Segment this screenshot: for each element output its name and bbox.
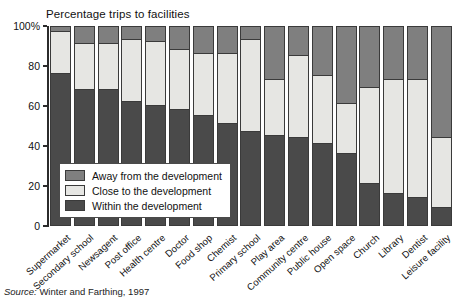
bar-segment <box>264 80 285 136</box>
bar-segment <box>359 184 380 226</box>
bar-segment <box>121 26 142 40</box>
bar-segment <box>312 144 333 226</box>
bar-play-area[interactable] <box>264 26 285 226</box>
legend-item: Close to the development <box>65 183 222 198</box>
y-axis-tick <box>43 65 47 67</box>
y-axis-tick <box>43 185 47 187</box>
bar-segment <box>145 26 166 42</box>
y-axis-tick-label: 80 <box>0 60 40 72</box>
bar-segment <box>193 26 214 54</box>
bar-segment <box>431 138 452 208</box>
chart-legend: Away from the development Close to the d… <box>59 163 231 218</box>
source-text: Winter and Farthing, 1997 <box>39 286 149 297</box>
legend-item: Within the development <box>65 198 222 213</box>
bar-segment <box>336 26 357 104</box>
bar-segment <box>98 44 119 90</box>
y-axis-tick <box>43 145 47 147</box>
y-axis-tick-label: 60 <box>0 100 40 112</box>
bar-segment <box>431 208 452 226</box>
bar-segment <box>288 26 309 56</box>
bar-segment <box>407 198 428 226</box>
legend-swatch-close-icon <box>65 185 85 196</box>
bar-segment <box>312 26 333 76</box>
chart-title: Percentage trips to facilities <box>46 8 190 20</box>
legend-item: Away from the development <box>65 168 222 183</box>
bar-segment <box>383 26 404 80</box>
bar-segment <box>217 26 238 54</box>
bar-community-centre[interactable] <box>288 26 309 226</box>
y-axis-tick <box>43 25 47 27</box>
bar-primary-school[interactable] <box>240 26 261 226</box>
chart-figure: Percentage trips to facilities 020406080… <box>0 0 458 304</box>
legend-label-away: Away from the development <box>92 170 222 182</box>
bar-segment <box>288 138 309 226</box>
bar-public-house[interactable] <box>312 26 333 226</box>
bar-segment <box>240 26 261 40</box>
bar-church[interactable] <box>359 26 380 226</box>
x-axis-label-church: Church <box>351 232 382 261</box>
source-prefix: Source: <box>4 286 37 297</box>
bar-segment <box>264 26 285 80</box>
y-axis-line <box>47 26 49 227</box>
bar-segment <box>193 54 214 116</box>
bar-segment <box>74 44 95 90</box>
bar-segment <box>217 54 238 124</box>
legend-swatch-within-icon <box>65 200 85 211</box>
y-axis-tick-label: 100% <box>0 20 40 32</box>
bar-segment <box>383 194 404 226</box>
y-axis-tick <box>43 225 47 227</box>
bar-segment <box>169 26 190 50</box>
bar-segment <box>312 76 333 144</box>
legend-label-close: Close to the development <box>92 185 211 197</box>
bar-segment <box>98 26 119 44</box>
bar-segment <box>240 132 261 226</box>
bar-segment <box>264 136 285 226</box>
y-axis-tick-label: 20 <box>0 180 40 192</box>
bar-leisure-facility[interactable] <box>431 26 452 226</box>
bar-library[interactable] <box>383 26 404 226</box>
legend-label-within: Within the development <box>92 200 202 212</box>
bar-segment <box>145 42 166 106</box>
y-axis-tick-label: 40 <box>0 140 40 152</box>
bar-segment <box>407 26 428 80</box>
bar-segment <box>359 26 380 88</box>
source-note: Source: Winter and Farthing, 1997 <box>4 286 149 297</box>
bar-segment <box>431 26 452 138</box>
x-axis-label-library: Library <box>376 232 405 260</box>
bar-segment <box>169 50 190 110</box>
bar-dentist[interactable] <box>407 26 428 226</box>
y-axis-tick <box>43 105 47 107</box>
y-axis-tick-label: 0 <box>0 220 40 232</box>
bar-segment <box>407 80 428 198</box>
bar-segment <box>288 56 309 138</box>
bar-segment <box>74 26 95 44</box>
bar-segment <box>336 104 357 154</box>
bar-open-space[interactable] <box>336 26 357 226</box>
bar-segment <box>336 154 357 226</box>
bar-segment <box>50 32 71 74</box>
legend-swatch-away-icon <box>65 170 85 181</box>
bar-segment <box>121 40 142 102</box>
bar-segment <box>240 40 261 132</box>
bar-segment <box>359 88 380 184</box>
bar-segment <box>383 80 404 194</box>
